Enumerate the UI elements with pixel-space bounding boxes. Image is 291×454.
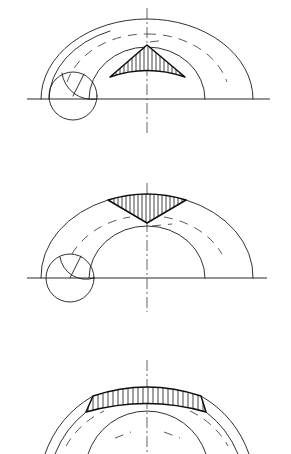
figure-1-generating-curve-left [49,31,110,99]
figure-3-dash-tick-left [115,432,131,438]
figure-2-outer-arc-right [186,200,253,278]
figure-1-apex-tick [150,40,166,42]
figure-3 [45,360,249,454]
figure-2-inner-arc [89,226,205,278]
figure-2-dashed-arc-right [164,217,222,254]
figure-2-dashed-arc-left [72,217,130,254]
figure-3-flank-right [206,412,238,454]
figure-2-circle-radius-mark [70,256,81,278]
figure-1-hatch-background [110,45,185,77]
figure-3-hatched-region [86,375,206,440]
technical-drawing-root [0,0,291,454]
figure-3-flank-left [55,412,86,454]
figure-1-circle-radius-mark [73,74,84,96]
figure-3-dashed-arc-left [66,411,104,446]
figure-3-dash-tick-right [164,432,180,438]
figure-1-hatch-lines [112,30,184,90]
figure-2 [27,183,267,312]
figure-3-outer-arc-left [45,396,93,454]
figure-3-outer-arc-right [201,396,249,454]
figure-3-dashed-arc-right [190,411,228,446]
figure-2-outer-arc-left [41,200,108,278]
figure-2-apex-tick [152,224,172,226]
figure-1-hatched-region [110,30,185,90]
figure-1-cycloid-flank [62,73,97,99]
drawing-canvas [0,0,291,454]
figure-1 [27,8,270,133]
